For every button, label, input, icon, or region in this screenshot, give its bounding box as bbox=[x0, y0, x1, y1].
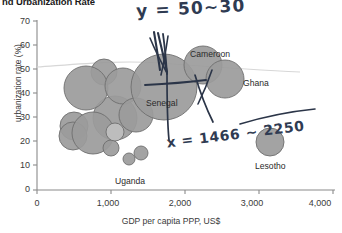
bubble-label-senegal: Senegal bbox=[146, 98, 178, 108]
plot-area bbox=[0, 0, 342, 233]
bubble bbox=[134, 146, 148, 160]
bubble-label-cameroon: Cameroon bbox=[190, 49, 230, 59]
bubble bbox=[103, 140, 119, 156]
bubble-ring-inner bbox=[106, 123, 124, 141]
chart-canvas: nd Urbanization Rate urbanization rate (… bbox=[0, 0, 342, 233]
bubble bbox=[64, 66, 108, 110]
bubble-ghana bbox=[206, 60, 244, 98]
bubble-uganda bbox=[123, 153, 135, 165]
bubble-label-lesotho: Lesotho bbox=[255, 161, 286, 171]
bubble-label-uganda: Uganda bbox=[115, 176, 145, 186]
bubble-label-ghana: Ghana bbox=[243, 78, 269, 88]
y-axis-ticks bbox=[33, 21, 37, 190]
x-axis-ticks bbox=[37, 190, 333, 194]
